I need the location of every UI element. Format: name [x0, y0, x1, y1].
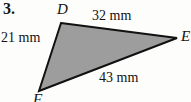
problem-number: 3.: [3, 1, 15, 17]
vertex-label-f: F: [33, 92, 42, 102]
side-length-label-de: 32 mm: [92, 9, 131, 23]
vertex-label-e: E: [181, 29, 190, 44]
side-length-label-ef: 43 mm: [99, 71, 138, 85]
side-length-label-df: 21 mm: [1, 31, 40, 45]
geometry-figure: 3. D E F 32 mm 21 mm 43 mm: [0, 0, 191, 102]
vertex-label-d: D: [57, 2, 68, 17]
